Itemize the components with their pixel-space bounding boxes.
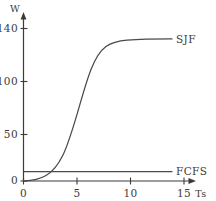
y-tick-labels: 140 100 50 0 xyxy=(0,22,18,186)
y-tick-label-0: 0 xyxy=(11,174,18,186)
series-label-sjf: SJF xyxy=(176,33,196,45)
x-axis-title: Ts xyxy=(195,188,206,199)
x-tick-label-0: 0 xyxy=(20,187,27,199)
y-axis-arrow-icon xyxy=(21,12,27,20)
x-tick-label-5: 5 xyxy=(73,187,80,199)
y-tick-label-100: 100 xyxy=(0,75,18,87)
x-tick-label-10: 10 xyxy=(123,187,137,199)
x-tick-labels: 0 5 10 15 xyxy=(20,187,191,199)
axes-group xyxy=(21,12,196,184)
line-chart: 140 100 50 0 0 5 10 15 W Ts FCFS SJF xyxy=(0,0,216,201)
series-label-fcfs: FCFS xyxy=(176,165,207,177)
x-axis-arrow-icon xyxy=(189,178,197,184)
y-tick-label-140: 140 xyxy=(0,22,18,34)
x-tick-label-15: 15 xyxy=(177,187,191,199)
series-line-sjf xyxy=(24,39,173,181)
y-axis-title: W xyxy=(10,3,20,14)
y-tick-label-50: 50 xyxy=(4,128,18,140)
chart-container: 140 100 50 0 0 5 10 15 W Ts FCFS SJF xyxy=(0,0,216,201)
